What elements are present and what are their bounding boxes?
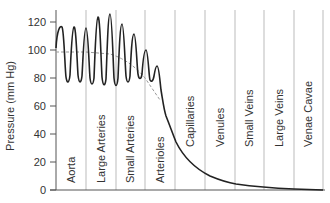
segment-label-large-veins: Large Veins [273,88,285,147]
segment-label-large-arteries: Large Arteries [95,114,107,183]
y-axis-label: Pressure (mm Hg) [4,61,16,151]
blood-pressure-chart: 0 20 40 60 80 100 120 Pressure (mm Hg) A… [0,0,330,203]
segment-label-venae-cavae: Venae Cavae [302,81,314,147]
y-tick-80: 80 [34,72,46,84]
y-tick-labels: 0 20 40 60 80 100 120 [28,16,46,196]
y-axis [50,10,56,190]
segment-label-venules: Venules [214,107,226,147]
y-tick-100: 100 [28,44,46,56]
segment-label-small-veins: Small Veins [243,89,255,147]
segment-label-small-arteries: Small Arteries [124,115,136,183]
y-tick-20: 20 [34,156,46,168]
segment-label-arterioles: Arterioles [154,136,166,183]
chart-svg: 0 20 40 60 80 100 120 Pressure (mm Hg) A… [0,0,330,203]
y-tick-60: 60 [34,100,46,112]
segment-label-capillaries: Capillaries [184,95,196,147]
segment-label-aorta: Aorta [65,156,77,183]
y-tick-120: 120 [28,16,46,28]
segment-dividers [86,10,323,190]
y-tick-40: 40 [34,128,46,140]
mean-pressure-line [56,52,160,100]
y-tick-0: 0 [40,184,46,196]
segment-labels: Aorta Large Arteries Small Arteries Arte… [65,81,314,183]
